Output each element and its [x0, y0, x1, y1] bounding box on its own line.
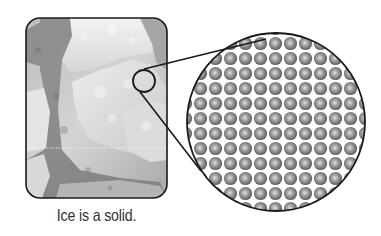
particle-grid — [180, 26, 380, 226]
magnified-view — [180, 26, 380, 226]
diagram-canvas — [0, 0, 381, 236]
figure-caption: Ice is a solid. — [35, 206, 158, 225]
ice-solid-diagram: Ice is a solid. — [0, 0, 381, 236]
ice-photo — [26, 18, 167, 198]
